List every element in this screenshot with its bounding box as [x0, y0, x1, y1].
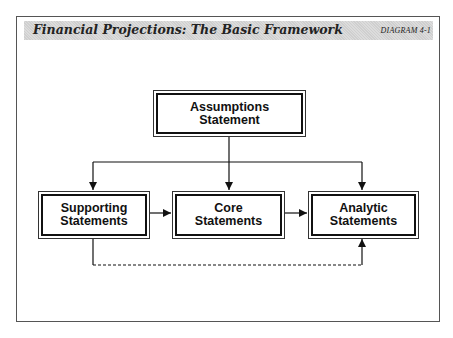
node-assumptions: Assumptions Statement — [153, 90, 306, 137]
node-assumptions-line1: Assumptions — [190, 101, 269, 114]
node-core: Core Statements — [172, 191, 285, 239]
node-core-line2: Statements — [195, 215, 262, 228]
node-analytic-line2: Statements — [330, 215, 397, 228]
node-analytic: Analytic Statements — [308, 191, 419, 239]
node-supporting-line2: Statements — [60, 215, 127, 228]
node-supporting: Supporting Statements — [38, 191, 150, 239]
connectors — [0, 0, 453, 338]
node-assumptions-line2: Statement — [199, 114, 259, 127]
